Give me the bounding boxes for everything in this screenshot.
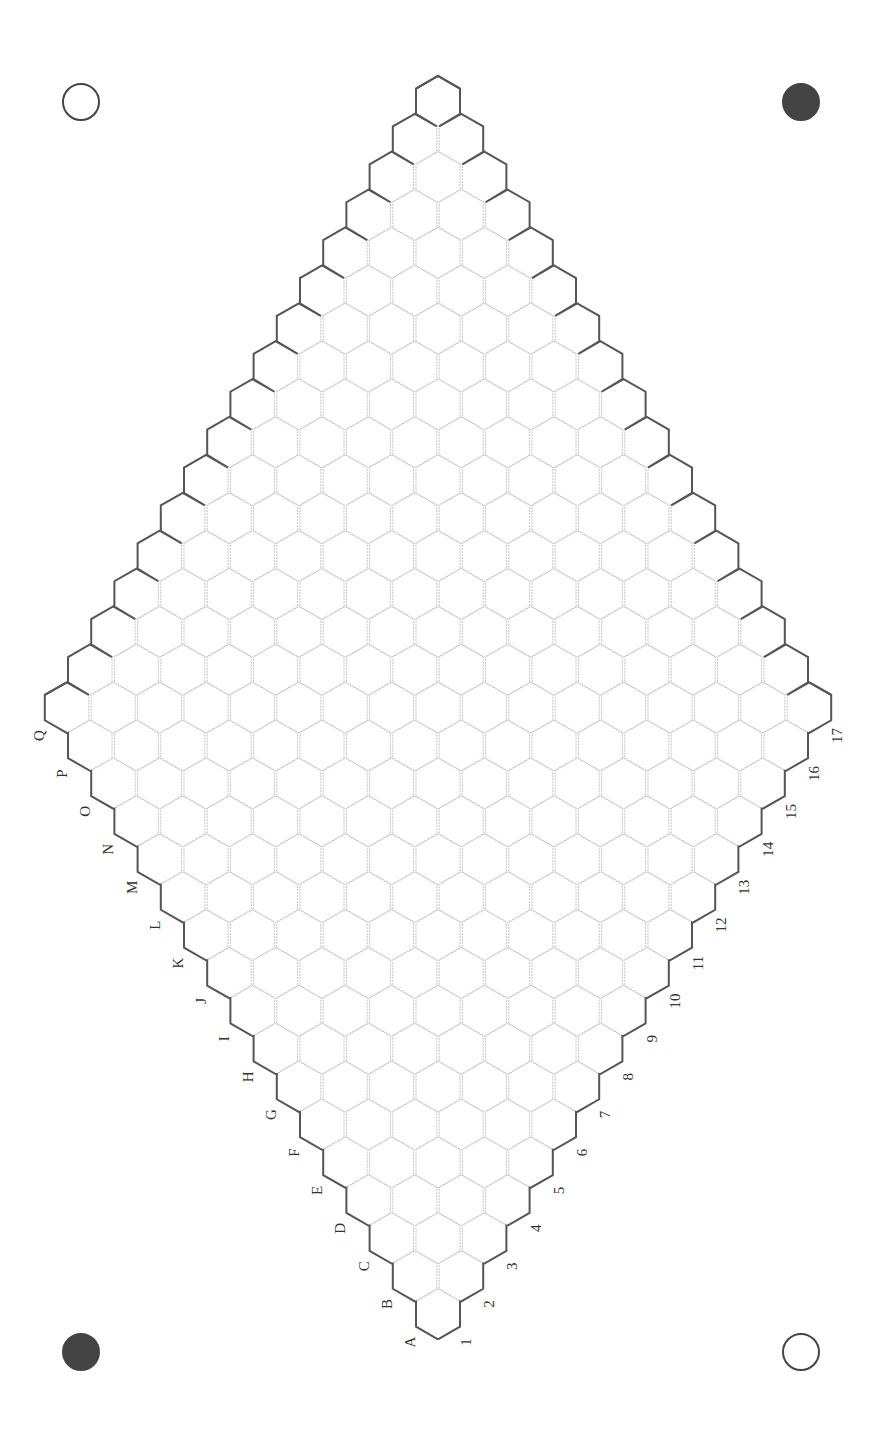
column-label-N: N <box>100 844 116 855</box>
column-label-L: L <box>147 921 163 930</box>
row-label-15: 15 <box>783 804 799 819</box>
hex-cells <box>45 76 831 1339</box>
row-label-9: 9 <box>644 1035 660 1043</box>
column-label-M: M <box>124 881 140 894</box>
column-label-F: F <box>286 1148 302 1156</box>
row-label-12: 12 <box>713 918 729 933</box>
row-label-3: 3 <box>504 1262 520 1270</box>
column-label-D: D <box>332 1223 348 1234</box>
column-label-Q: Q <box>31 730 47 741</box>
row-label-11: 11 <box>690 956 706 970</box>
row-label-8: 8 <box>620 1073 636 1081</box>
corner-marker-bottom-left-filled-circle-icon <box>63 1334 99 1370</box>
row-label-16: 16 <box>806 766 822 782</box>
corner-marker-top-left-open-circle-icon <box>63 84 99 120</box>
row-label-13: 13 <box>736 880 752 895</box>
row-label-4: 4 <box>528 1224 544 1232</box>
column-label-G: G <box>263 1109 279 1120</box>
column-label-K: K <box>170 957 186 968</box>
column-label-B: B <box>379 1299 395 1309</box>
row-label-17: 17 <box>829 728 845 744</box>
corner-marker-top-right-filled-circle-icon <box>783 84 819 120</box>
column-label-C: C <box>356 1261 372 1271</box>
hex-board: ABCDEFGHIJKLMNOPQ12345678910111213141516… <box>0 0 871 1448</box>
corner-marker-bottom-right-open-circle-icon <box>783 1334 819 1370</box>
column-label-H: H <box>240 1071 256 1082</box>
row-label-10: 10 <box>667 993 683 1008</box>
column-label-J: J <box>193 998 209 1004</box>
column-label-O: O <box>77 806 93 817</box>
row-label-7: 7 <box>597 1110 613 1118</box>
row-label-14: 14 <box>760 841 776 857</box>
row-label-5: 5 <box>551 1187 567 1195</box>
row-label-2: 2 <box>481 1300 497 1308</box>
column-label-P: P <box>54 769 70 777</box>
column-label-A: A <box>402 1336 418 1347</box>
row-label-1: 1 <box>458 1338 474 1346</box>
column-label-I: I <box>216 1036 232 1041</box>
row-label-6: 6 <box>574 1148 590 1156</box>
column-label-E: E <box>309 1186 325 1195</box>
